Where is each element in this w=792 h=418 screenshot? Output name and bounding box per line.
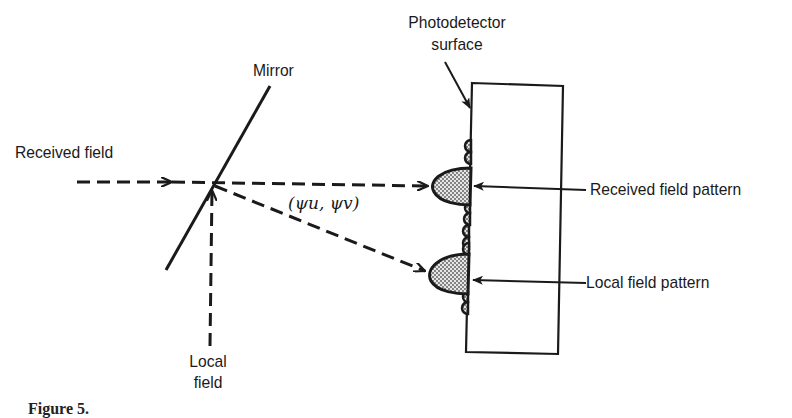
local-field-label-line2: field [180,373,235,393]
photodetector-label-line1: Photodetector [397,13,517,33]
local-beam [210,190,212,346]
local-field-label-line1: Local [180,352,235,372]
received-beam [77,182,428,186]
photodetector-box [466,83,563,354]
received-field-pattern-label: Received field pattern [590,180,741,200]
photodetector-label-line2: surface [397,35,517,55]
angle-label: (ψu, ψv) [288,193,359,213]
mirror-line [166,86,270,270]
received-field-lobe [433,168,471,205]
local-field-lobe [430,254,469,294]
received-pattern-leader [474,186,586,190]
local-pattern-leader [473,280,586,283]
figure-caption-partial: Figure 5. [28,400,89,418]
local-field-pattern-label: Local field pattern [586,273,709,293]
received-field-label: Received field [15,143,113,163]
mirror-label: Mirror [253,61,294,81]
photodetector-leader [445,62,470,108]
